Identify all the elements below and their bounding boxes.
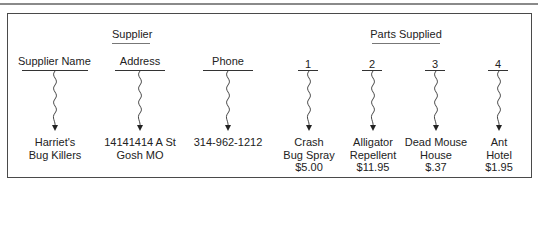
value-phone: 314-962-1212 [194,136,263,149]
value-line: Crash [283,136,334,149]
value-line: Ant [485,136,513,149]
value-line: Dead Mouse [405,136,467,149]
value-line: 314-962-1212 [194,136,263,149]
wavy-arrow-icon [496,71,502,131]
value-line: $1.95 [485,161,513,174]
value-line: Alligator [350,136,396,149]
value-line: Bug Spray [283,149,334,162]
value-part-3: Dead Mouse House $.37 [405,136,467,174]
value-line: Gosh MO [104,149,176,162]
value-line: House [405,149,467,162]
value-line: Repellent [350,149,396,162]
value-line: $11.95 [350,161,396,174]
value-part-1: Crash Bug Spray $5.00 [283,136,334,174]
value-part-2: Alligator Repellent $11.95 [350,136,396,174]
value-part-4: Ant Hotel $1.95 [485,136,513,174]
wavy-arrow-icon [433,71,439,131]
wavy-arrow-icon [52,71,58,131]
value-supplier-name: Harriet's Bug Killers [29,136,82,161]
value-line: $5.00 [283,161,334,174]
wavy-arrow-icon [370,71,376,131]
value-line: Hotel [485,149,513,162]
wavy-arrow-icon [137,71,143,131]
value-line: 14141414 A St [104,136,176,149]
value-line: $.37 [405,161,467,174]
value-line: Bug Killers [29,149,82,162]
wavy-arrow-icon [306,71,312,131]
wavy-arrow-icon [225,71,231,131]
value-line: Harriet's [29,136,82,149]
value-address: 14141414 A St Gosh MO [104,136,176,161]
